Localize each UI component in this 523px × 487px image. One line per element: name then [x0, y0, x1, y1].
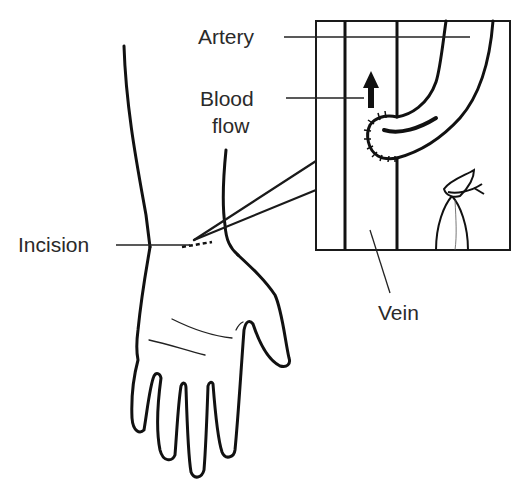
- inset-detail: [316, 21, 510, 250]
- label-incision: Incision: [18, 233, 89, 256]
- fistula-diagram: Artery Blood flow Incision Vein: [0, 0, 523, 487]
- forearm-right-edge: [223, 150, 238, 255]
- palm-crease-upper: [172, 319, 232, 338]
- callout-wedge: [194, 161, 316, 240]
- arm-hand-illustration: [124, 46, 290, 477]
- label-vein: Vein: [378, 301, 419, 324]
- palm-crease-lower: [149, 340, 205, 355]
- hand-outline: [132, 247, 290, 477]
- label-artery: Artery: [198, 25, 255, 48]
- label-blood-flow-line1: Blood: [200, 87, 254, 110]
- forearm-left-edge: [124, 46, 150, 247]
- thumb-crease: [236, 322, 243, 330]
- label-blood-flow-line2: flow: [212, 114, 250, 137]
